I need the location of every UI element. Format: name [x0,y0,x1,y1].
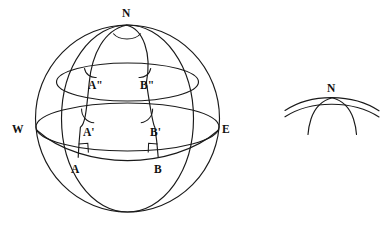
pole-detail-inset: N [285,82,379,135]
label-west: W [12,123,24,135]
front-meridian-ellipse [62,25,194,212]
detail-meridian-left [308,98,332,135]
detail-meridian-right [332,98,356,135]
label-b-double-prime: B" [140,79,154,91]
label-detail-north-pole: N [327,82,336,94]
right-angle-mark-b [148,143,157,152]
detail-lower-arc [285,104,379,117]
angle-arc-a-prime [82,109,95,123]
parallel-circle-ellipse [57,63,199,101]
label-north-pole: N [122,7,131,19]
sphere-diagram: N W E A" B" A' B' A B [12,7,230,212]
angle-arc-north-pole [113,34,141,39]
label-a: A [71,163,80,175]
label-a-double-prime: A" [88,79,103,91]
spherical-geometry-figure: Spherical triangle diagram with north po… [0,0,392,235]
sphere-outline [36,25,220,212]
figure-root: Spherical triangle diagram with north po… [0,0,392,235]
angle-arc-b-double-prime [139,68,151,77]
label-east: E [222,123,230,135]
label-a-prime: A' [83,126,95,138]
label-b-prime: B' [150,126,161,138]
label-b: B [154,163,162,175]
